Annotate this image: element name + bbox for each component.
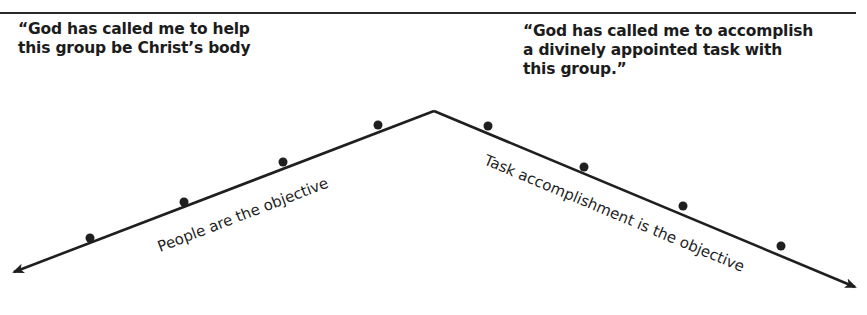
scale-marker-dot [580,163,589,172]
task-arrow [434,111,855,287]
scale-marker-dot [679,202,688,211]
people-objective-label: People are the objective [155,174,331,256]
scale-marker-dot [484,122,493,131]
scale-marker-dot [180,198,189,207]
people-arrow [14,111,434,272]
orientation-diagram: People are the objective Task accomplish… [0,0,867,315]
scale-marker-dot [374,121,383,130]
task-objective-label: Task accomplishment is the objective [481,151,748,276]
scale-marker-dot [86,234,95,243]
scale-marker-dot [279,158,288,167]
scale-marker-dot [777,242,786,251]
